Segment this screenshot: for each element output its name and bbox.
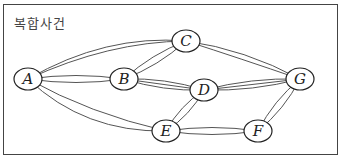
- node-label-D: D: [197, 81, 210, 99]
- route-graph: ABCDEFG: [0, 0, 346, 164]
- node-label-F: F: [252, 122, 264, 140]
- node-E: E: [152, 120, 180, 142]
- edge-C-G: [186, 41, 300, 79]
- edge-A-E: [28, 79, 166, 131]
- node-G: G: [286, 68, 314, 90]
- node-label-E: E: [160, 122, 172, 140]
- node-B: B: [110, 68, 138, 90]
- node-C: C: [172, 30, 200, 52]
- edge-A-E: [28, 79, 166, 131]
- node-label-B: B: [117, 70, 129, 88]
- node-label-C: C: [180, 32, 192, 50]
- node-A: A: [14, 68, 42, 90]
- node-label-G: G: [294, 70, 306, 88]
- node-F: F: [244, 120, 272, 142]
- node-label-A: A: [21, 70, 34, 88]
- node-D: D: [190, 79, 218, 101]
